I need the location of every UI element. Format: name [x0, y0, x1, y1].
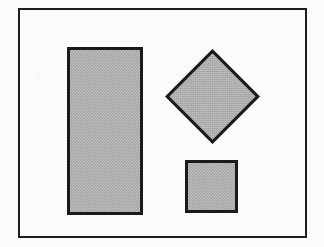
figure-canvas — [0, 0, 324, 247]
shape-diamond-container — [165, 49, 260, 144]
border-frame — [18, 8, 307, 238]
shape-square — [185, 160, 238, 213]
shape-diamond — [165, 49, 260, 144]
shape-rectangle — [67, 47, 143, 215]
